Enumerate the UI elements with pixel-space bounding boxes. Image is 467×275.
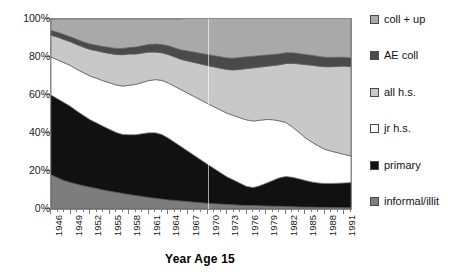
- x-tick-mark: [89, 209, 90, 214]
- legend-label: informal/illit: [384, 196, 439, 207]
- x-tick-label: 1967: [191, 215, 201, 236]
- x-tick-mark: [246, 209, 247, 214]
- x-tick-mark: [324, 209, 325, 214]
- x-tick-label: 1952: [93, 215, 103, 236]
- x-tick-mark: [180, 209, 181, 212]
- x-tick-mark: [298, 209, 299, 212]
- legend-swatch-icon: [370, 124, 379, 133]
- x-tick-mark: [317, 209, 318, 212]
- x-tick-mark: [278, 209, 279, 212]
- y-tick-label: 0%: [6, 203, 50, 214]
- y-tick-label: 100%: [6, 13, 50, 24]
- x-tick-mark: [102, 209, 103, 212]
- x-tick-mark: [57, 209, 58, 212]
- y-axis: 0%20%40%60%80%100%: [0, 0, 50, 212]
- x-tick-mark: [239, 209, 240, 212]
- x-tick-mark: [272, 209, 273, 212]
- x-tick-mark: [350, 209, 351, 212]
- x-tick-mark: [141, 209, 142, 212]
- x-tick-label: 1949: [74, 215, 84, 236]
- chart-container: 0%20%40%60%80%100% 194619491952195519581…: [0, 0, 467, 275]
- x-tick-mark: [193, 209, 194, 212]
- x-tick-mark: [233, 209, 234, 212]
- legend-label: coll + up: [384, 14, 425, 25]
- x-tick-mark: [252, 209, 253, 212]
- x-tick-mark: [96, 209, 97, 212]
- legend-swatch-icon: [370, 15, 379, 24]
- x-tick-label: 1991: [347, 215, 357, 236]
- legend-item-all-h-s[interactable]: all h.s.: [370, 87, 467, 98]
- x-tick-mark: [128, 209, 129, 214]
- x-tick-mark: [174, 209, 175, 212]
- x-tick-mark: [226, 209, 227, 214]
- x-tick-label: 1946: [54, 215, 64, 236]
- x-tick-label: 1985: [308, 215, 318, 236]
- x-tick-label: 1982: [289, 215, 299, 236]
- legend-label: AE coll: [384, 50, 418, 61]
- x-tick-mark: [337, 209, 338, 212]
- legend-item-primary[interactable]: primary: [370, 160, 467, 171]
- legend-item-ae-coll[interactable]: AE coll: [370, 50, 467, 61]
- y-tick-label: 40%: [6, 127, 50, 138]
- x-tick-label: 1970: [211, 215, 221, 236]
- x-tick-mark: [213, 209, 214, 212]
- legend-item-coll-up[interactable]: coll + up: [370, 14, 467, 25]
- x-tick-mark: [207, 209, 208, 214]
- x-tick-label: 1979: [269, 215, 279, 236]
- x-tick-mark: [330, 209, 331, 212]
- legend-swatch-icon: [370, 88, 379, 97]
- x-tick-label: 1961: [152, 215, 162, 236]
- legend-swatch-icon: [370, 197, 379, 206]
- x-tick-mark: [167, 209, 168, 214]
- legend: coll + upAE collall h.s.jr h.s.primaryin…: [370, 14, 467, 232]
- y-tick-label: 80%: [6, 51, 50, 62]
- x-tick-mark: [311, 209, 312, 212]
- x-tick-label: 1973: [230, 215, 240, 236]
- x-tick-label: 1988: [328, 215, 338, 236]
- legend-item-informal-illit[interactable]: informal/illit: [370, 196, 467, 207]
- x-tick-label: 1976: [250, 215, 260, 236]
- x-tick-mark: [135, 209, 136, 212]
- x-tick-mark: [76, 209, 77, 212]
- x-axis-title: Year Age 15: [50, 252, 350, 266]
- plot-area: [50, 18, 352, 210]
- x-tick-mark: [187, 209, 188, 214]
- scanline-artifact: [208, 19, 209, 209]
- x-tick-mark: [50, 209, 51, 214]
- y-tick-label: 60%: [6, 89, 50, 100]
- x-tick-mark: [154, 209, 155, 212]
- stacked-area-svg: [51, 19, 351, 209]
- legend-label: all h.s.: [384, 87, 416, 98]
- x-tick-mark: [63, 209, 64, 212]
- x-tick-mark: [304, 209, 305, 214]
- x-tick-label: 1958: [132, 215, 142, 236]
- x-tick-label: 1955: [113, 215, 123, 236]
- x-tick-mark: [259, 209, 260, 212]
- x-tick-mark: [161, 209, 162, 212]
- x-tick-mark: [122, 209, 123, 212]
- legend-label: primary: [384, 160, 421, 171]
- x-tick-label: 1964: [171, 215, 181, 236]
- legend-swatch-icon: [370, 51, 379, 60]
- x-tick-mark: [343, 209, 344, 214]
- y-tick-label: 20%: [6, 165, 50, 176]
- x-tick-mark: [83, 209, 84, 212]
- x-tick-mark: [265, 209, 266, 214]
- x-tick-mark: [109, 209, 110, 214]
- x-tick-mark: [291, 209, 292, 212]
- x-tick-mark: [285, 209, 286, 214]
- legend-swatch-icon: [370, 161, 379, 170]
- legend-item-jr-h-s[interactable]: jr h.s.: [370, 123, 467, 134]
- x-tick-mark: [115, 209, 116, 212]
- legend-label: jr h.s.: [384, 123, 411, 134]
- x-tick-mark: [220, 209, 221, 212]
- x-tick-mark: [200, 209, 201, 212]
- x-tick-mark: [70, 209, 71, 214]
- x-tick-mark: [148, 209, 149, 214]
